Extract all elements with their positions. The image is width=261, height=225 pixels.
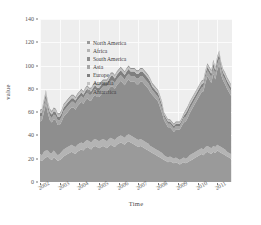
y-tick-mark: [36, 65, 38, 66]
plot-area: North AmericaAfricaSouth AmericaAsiaEuro…: [40, 19, 232, 182]
legend-label: Asia: [93, 64, 103, 70]
legend-label: Antarctica: [93, 89, 116, 95]
y-tick-mark: [36, 158, 38, 159]
x-tick-mark: [60, 183, 61, 185]
legend-label: Europe: [93, 72, 109, 78]
legend-item[interactable]: Africa: [87, 47, 126, 54]
y-tick-label: 60: [28, 109, 34, 115]
x-tick-mark: [198, 183, 199, 185]
y-tick-label: 140: [25, 16, 34, 22]
legend-item[interactable]: Antarctica: [87, 88, 126, 95]
x-tick-label: 2002: [37, 180, 50, 191]
x-tick-mark: [119, 183, 120, 185]
y-tick-mark: [36, 42, 38, 43]
y-tick-mark: [36, 88, 38, 89]
legend-swatch-icon: [87, 57, 90, 60]
stacked-area-series: [40, 19, 232, 182]
x-tick-mark: [138, 183, 139, 185]
y-tick-label: 100: [25, 63, 34, 69]
y-tick-label: 120: [25, 39, 34, 45]
legend-label: South America: [93, 56, 126, 62]
legend: North AmericaAfricaSouth AmericaAsiaEuro…: [87, 39, 126, 95]
x-axis-label: Time: [40, 200, 232, 207]
x-tick-mark: [178, 183, 179, 185]
y-tick-label: 20: [28, 156, 34, 162]
y-tick-label: 80: [28, 86, 34, 92]
y-axis-ticks: 020406080100120140: [0, 19, 38, 182]
legend-swatch-icon: [87, 49, 90, 52]
legend-swatch-icon: [87, 65, 90, 68]
x-tick-mark: [158, 183, 159, 185]
y-tick-label: 0: [31, 179, 34, 185]
x-tick-mark: [79, 183, 80, 185]
y-tick-mark: [36, 19, 38, 20]
legend-swatch-icon: [87, 74, 90, 77]
x-tick-mark: [217, 183, 218, 185]
y-tick-label: 40: [28, 132, 34, 138]
chart-figure: value 020406080100120140 North AmericaAf…: [0, 0, 261, 225]
legend-swatch-icon: [87, 82, 90, 85]
legend-item[interactable]: Asia: [87, 64, 126, 71]
x-tick-mark: [99, 183, 100, 185]
legend-item[interactable]: South America: [87, 55, 126, 62]
y-tick-mark: [36, 135, 38, 136]
legend-item[interactable]: North America: [87, 39, 126, 46]
legend-label: Australia: [93, 80, 114, 86]
legend-label: Africa: [93, 48, 107, 54]
legend-item[interactable]: Europe: [87, 72, 126, 79]
legend-swatch-icon: [87, 90, 90, 93]
x-tick-mark: [40, 183, 41, 185]
legend-label: North America: [93, 40, 126, 46]
y-tick-mark: [36, 112, 38, 113]
legend-swatch-icon: [87, 41, 90, 44]
y-tick-mark: [36, 182, 38, 183]
legend-item[interactable]: Australia: [87, 80, 126, 87]
